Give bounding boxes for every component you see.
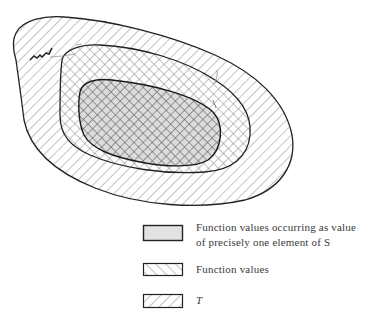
- legend-label-t: T: [196, 293, 202, 308]
- legend-swatch-precisely-one: [144, 226, 183, 241]
- legend-label-line2: of precisely one element of S: [196, 235, 356, 250]
- legend-swatch-t: [144, 295, 183, 308]
- legend-swatch-function-values: [144, 264, 183, 276]
- legend-label-line1: Function values occurring as value: [196, 220, 356, 235]
- legend-label-precisely-one: Function values occurring as value of pr…: [196, 220, 356, 250]
- legend-label-function-values: Function values: [196, 262, 269, 277]
- venn-diagram: [0, 0, 388, 330]
